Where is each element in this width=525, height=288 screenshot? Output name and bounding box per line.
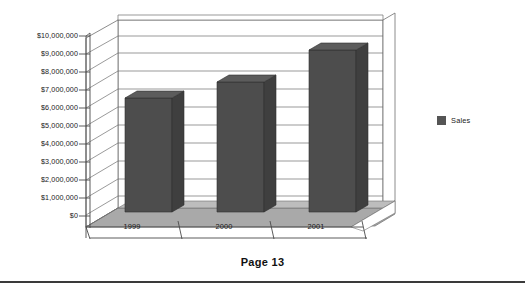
- bar-2001-front-face: [309, 50, 356, 212]
- document-page: $10,000,000 $9,000,000 $8,000,000 $7,000…: [0, 0, 525, 288]
- bar-1999-front-face: [125, 98, 172, 212]
- legend-swatch-sales-icon: [437, 116, 446, 125]
- page-number: Page 13: [241, 256, 285, 268]
- sales-3d-column-chart: $10,000,000 $9,000,000 $8,000,000 $7,000…: [0, 0, 525, 245]
- bar-1999[interactable]: [125, 91, 184, 212]
- bar-1999-side-face: [172, 91, 184, 212]
- legend-label-sales: Sales: [451, 116, 471, 125]
- bar-2000-front-face: [217, 82, 264, 212]
- footer-divider: [0, 281, 525, 283]
- bar-2000-side-face: [264, 75, 276, 212]
- bar-2001-side-face: [356, 43, 368, 212]
- right-side-wall: [383, 13, 395, 208]
- chart-legend: Sales: [437, 116, 471, 125]
- x-label-2000: 2000: [194, 222, 254, 231]
- x-axis-category-labels: 1999 2000 2001: [0, 222, 400, 238]
- ceiling-band: [118, 15, 383, 20]
- page-footer: Page 13: [0, 252, 525, 270]
- x-label-1999: 1999: [102, 222, 162, 231]
- bar-2000[interactable]: [217, 75, 276, 212]
- x-label-2001: 2001: [286, 222, 346, 231]
- bar-2001[interactable]: [309, 43, 368, 212]
